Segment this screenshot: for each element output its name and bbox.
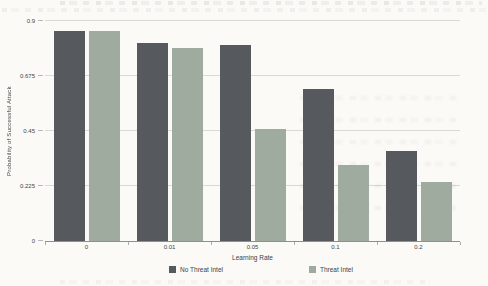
- legend-item-no-threat-intel: No Threat Intel: [169, 266, 223, 273]
- plot-area: [45, 21, 460, 242]
- bar-no-threat-intel: [303, 89, 334, 241]
- legend-label-no-threat-intel: No Threat Intel: [180, 266, 223, 273]
- bar-no-threat-intel: [220, 45, 251, 241]
- y-tick-label: 0.9: [27, 18, 35, 24]
- bar-no-threat-intel: [54, 31, 85, 241]
- x-tick-label: 0.01: [128, 244, 211, 250]
- y-tick-label: 0.45: [23, 128, 35, 134]
- category-group: [211, 21, 294, 241]
- x-tick-label: 0.05: [211, 244, 294, 250]
- y-tick-mark: [38, 75, 43, 76]
- legend-item-threat-intel: Threat Intel: [309, 266, 353, 273]
- x-axis-labels: 00.010.050.10.2: [45, 244, 460, 250]
- category-group: [128, 21, 211, 241]
- y-axis-labels: 00.2250.450.6750.9: [0, 21, 44, 241]
- legend-swatch-threat-intel: [309, 266, 316, 273]
- bar-threat-intel: [89, 31, 120, 241]
- x-tick-mark: [460, 242, 461, 245]
- x-tick-label: 0.1: [294, 244, 377, 250]
- x-tick-label: 0: [45, 244, 128, 250]
- bar-no-threat-intel: [137, 43, 168, 241]
- bar-threat-intel: [338, 165, 369, 241]
- legend-label-threat-intel: Threat Intel: [320, 266, 353, 273]
- x-axis-title: Learning Rate: [45, 254, 460, 261]
- bar-threat-intel: [172, 48, 203, 241]
- y-tick-mark: [38, 240, 43, 241]
- legend-swatch-no-threat-intel: [169, 266, 176, 273]
- y-tick-label: 0.675: [20, 73, 35, 79]
- category-group: [45, 21, 128, 241]
- bar-chart: Probability of Successful Attack 00.2250…: [0, 0, 488, 286]
- x-tick-label: 0.2: [377, 244, 460, 250]
- category-group: [294, 21, 377, 241]
- legend: No Threat Intel Threat Intel: [0, 266, 488, 273]
- bar-threat-intel: [255, 129, 286, 241]
- y-tick-label: 0.225: [20, 183, 35, 189]
- scanned-page: Probability of Successful Attack 00.2250…: [0, 0, 488, 286]
- y-tick-mark: [38, 20, 43, 21]
- category-group: [377, 21, 460, 241]
- bar-no-threat-intel: [386, 151, 417, 241]
- y-tick-label: 0: [32, 238, 35, 244]
- y-tick-mark: [38, 130, 43, 131]
- y-tick-mark: [38, 185, 43, 186]
- bar-threat-intel: [421, 182, 452, 241]
